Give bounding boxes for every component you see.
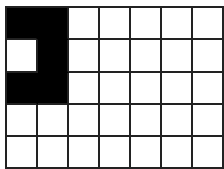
grid-cell[interactable] — [131, 8, 162, 40]
grid-cell[interactable] — [69, 73, 100, 105]
grid-cell[interactable] — [131, 137, 162, 168]
grid-cell[interactable] — [38, 8, 69, 40]
grid-cell[interactable] — [193, 137, 221, 168]
grid-cell[interactable] — [162, 105, 193, 137]
grid-cell[interactable] — [100, 8, 131, 40]
grid-cell[interactable] — [193, 73, 221, 105]
grid-cell[interactable] — [100, 73, 131, 105]
grid-cell[interactable] — [193, 105, 221, 137]
grid-cell[interactable] — [131, 105, 162, 137]
grid-cell[interactable] — [7, 73, 38, 105]
grid-cell[interactable] — [162, 137, 193, 168]
grid-cell[interactable] — [100, 137, 131, 168]
grid-cell[interactable] — [69, 137, 100, 168]
grid-cell[interactable] — [69, 105, 100, 137]
grid-cell[interactable] — [7, 105, 38, 137]
grid-cell[interactable] — [131, 73, 162, 105]
cell-grid — [5, 6, 221, 168]
grid-cell[interactable] — [162, 73, 193, 105]
grid-cell[interactable] — [38, 40, 69, 72]
grid-cell[interactable] — [69, 40, 100, 72]
grid-cell[interactable] — [162, 40, 193, 72]
grid-cell[interactable] — [193, 8, 221, 40]
grid-cell[interactable] — [7, 40, 38, 72]
grid-cell[interactable] — [162, 8, 193, 40]
grid-cell[interactable] — [7, 137, 38, 168]
grid-cell[interactable] — [7, 8, 38, 40]
grid-cell[interactable] — [38, 137, 69, 168]
grid-cell[interactable] — [38, 105, 69, 137]
grid-cell[interactable] — [38, 73, 69, 105]
grid-cell[interactable] — [100, 40, 131, 72]
grid-cell[interactable] — [69, 8, 100, 40]
grid-cell[interactable] — [193, 40, 221, 72]
grid-cell[interactable] — [131, 40, 162, 72]
grid-cell[interactable] — [100, 105, 131, 137]
